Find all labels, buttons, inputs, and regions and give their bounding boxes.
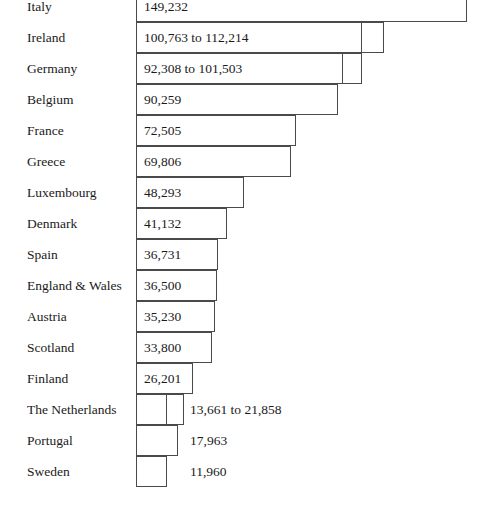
horizontal-bar-chart: Italy149,232Ireland100,763 to 112,214Ger… (0, 0, 491, 506)
bar-value-label: 26,201 (144, 363, 181, 394)
bar-value-label: 72,505 (144, 115, 181, 146)
bar-value-label: 149,232 (144, 0, 188, 22)
chart-row: The Netherlands13,661 to 21,858 (0, 394, 491, 425)
category-label: Sweden (27, 456, 70, 487)
category-label: Spain (27, 239, 58, 270)
category-label: Germany (27, 53, 77, 84)
bar-value-label: 92,308 to 101,503 (144, 53, 242, 84)
category-label: Luxembourg (27, 177, 97, 208)
chart-row: Belgium90,259 (0, 84, 491, 115)
category-label: Finland (27, 363, 68, 394)
category-label: Scotland (27, 332, 74, 363)
chart-row: France72,505 (0, 115, 491, 146)
bar-value-label: 36,500 (144, 270, 181, 301)
category-label: Italy (27, 0, 52, 22)
category-label: France (27, 115, 64, 146)
category-label: Greece (27, 146, 65, 177)
bar-range-divider (342, 53, 343, 84)
category-label: Austria (27, 301, 67, 332)
bar-value-label: 48,293 (144, 177, 181, 208)
bar-value-label: 33,800 (144, 332, 181, 363)
chart-row: Spain36,731 (0, 239, 491, 270)
category-label: The Netherlands (27, 394, 117, 425)
chart-row: Germany92,308 to 101,503 (0, 53, 491, 84)
bar-value-label: 35,230 (144, 301, 181, 332)
bar-value-label: 69,806 (144, 146, 181, 177)
category-label: England & Wales (27, 270, 122, 301)
chart-row: Sweden11,960 (0, 456, 491, 487)
bar (136, 456, 167, 487)
chart-row: Luxembourg48,293 (0, 177, 491, 208)
bar (136, 425, 178, 456)
chart-row: England & Wales36,500 (0, 270, 491, 301)
bar-value-label: 41,132 (144, 208, 181, 239)
chart-row: Ireland100,763 to 112,214 (0, 22, 491, 53)
category-label: Denmark (27, 208, 77, 239)
bar-value-label: 100,763 to 112,214 (144, 22, 249, 53)
chart-row: Denmark41,132 (0, 208, 491, 239)
category-label: Ireland (27, 22, 65, 53)
category-label: Belgium (27, 84, 74, 115)
category-label: Portugal (27, 425, 73, 456)
chart-row: Italy149,232 (0, 0, 491, 22)
bar-value-label: 11,960 (190, 456, 227, 487)
bar-range-divider (166, 394, 167, 425)
bar-value-label: 90,259 (144, 84, 181, 115)
chart-row: Portugal17,963 (0, 425, 491, 456)
chart-row: Greece69,806 (0, 146, 491, 177)
chart-row: Scotland33,800 (0, 332, 491, 363)
bar (136, 394, 184, 425)
bar-value-label: 36,731 (144, 239, 181, 270)
chart-row: Austria35,230 (0, 301, 491, 332)
bar-value-label: 17,963 (190, 425, 227, 456)
chart-row: Finland26,201 (0, 363, 491, 394)
bar-value-label: 13,661 to 21,858 (190, 394, 282, 425)
bar-range-divider (361, 22, 362, 53)
